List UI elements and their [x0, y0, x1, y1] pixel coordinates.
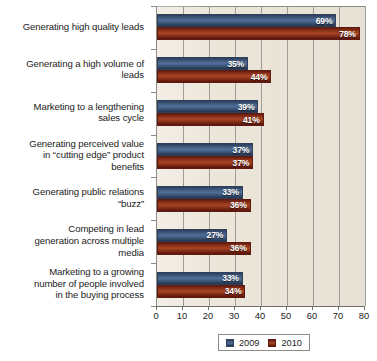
category-label-line: Generating perceived value	[0, 138, 144, 150]
category-label-column: Generating high quality leadsGenerating …	[0, 4, 148, 306]
bar-value-label: 37%	[233, 145, 250, 155]
bar-2009-4: 33%	[157, 186, 243, 199]
category-label-6: Marketing to a growingnumber of people i…	[0, 266, 144, 301]
category-label-line: Marketing to a lengthening	[0, 101, 144, 113]
bar-value-label: 27%	[207, 230, 224, 240]
category-label-5: Competing in leadgeneration across multi…	[0, 223, 144, 258]
category-label-line: Competing in lead	[0, 223, 144, 235]
bar-value-label: 37%	[233, 158, 250, 168]
category-axis-tick	[151, 263, 156, 264]
category-label-line: leads	[0, 69, 144, 81]
legend-label: 2009	[239, 338, 259, 348]
legend-swatch-2010	[268, 339, 276, 347]
bar-2010-5: 36%	[157, 242, 251, 255]
category-label-line: media	[0, 247, 144, 259]
bar-value-label: 69%	[316, 16, 333, 26]
bar-value-label: 35%	[227, 59, 244, 69]
x-axis-tick-label: 30	[222, 310, 246, 321]
bar-value-label: 33%	[222, 273, 239, 283]
category-label-line: Marketing to a growing	[0, 266, 144, 278]
category-label-line: benefits	[0, 161, 144, 173]
x-axis-tick-label: 20	[196, 310, 220, 321]
x-axis-tick-label: 0	[144, 310, 168, 321]
category-label-line: Generating a high volume of	[0, 58, 144, 70]
category-label-line: in “cutting edge” product	[0, 149, 144, 161]
bar-2009-0: 69%	[157, 14, 336, 27]
category-label-line: in the buying process	[0, 289, 144, 301]
category-label-2: Marketing to a lengtheningsales cycle	[0, 101, 144, 124]
bar-2010-3: 37%	[157, 156, 253, 169]
bar-value-label: 41%	[243, 115, 260, 125]
x-axis-tick-label: 40	[248, 310, 272, 321]
bar-2010-4: 36%	[157, 199, 251, 212]
x-axis-tick-label: 60	[300, 310, 324, 321]
gridline	[365, 6, 366, 306]
plot-area: 69%35%39%37%33%27%33%78%44%41%37%36%36%3…	[156, 6, 365, 306]
category-axis-tick	[151, 177, 156, 178]
category-label-line: generation across multiple	[0, 235, 144, 247]
category-axis-tick	[151, 306, 156, 307]
bar-2009-1: 35%	[157, 57, 248, 70]
bar-2010-0: 78%	[157, 27, 360, 40]
category-axis-tick	[151, 49, 156, 50]
bar-value-label: 44%	[251, 72, 268, 82]
category-label-line: number of people involved	[0, 278, 144, 290]
bar-2010-1: 44%	[157, 70, 271, 83]
category-axis-tick	[151, 92, 156, 93]
category-label-1: Generating a high volume ofleads	[0, 58, 144, 81]
bar-2010-2: 41%	[157, 113, 264, 126]
bar-2010-6: 34%	[157, 285, 245, 298]
category-axis-tick	[151, 220, 156, 221]
category-label-line: “buzz”	[0, 198, 144, 210]
bar-2009-5: 27%	[157, 229, 227, 242]
legend-item-2010[interactable]: 2010	[268, 338, 301, 348]
x-axis-tick-label: 80	[352, 310, 376, 321]
gridline	[261, 6, 262, 306]
x-axis-tick-label: 70	[326, 310, 350, 321]
bar-2009-3: 37%	[157, 143, 253, 156]
category-label-line: Generating high quality leads	[0, 21, 144, 33]
bar-value-label: 39%	[238, 102, 255, 112]
gridline	[313, 6, 314, 306]
category-axis-tick	[151, 135, 156, 136]
gridline	[339, 6, 340, 306]
bar-2009-6: 33%	[157, 272, 243, 285]
bar-chart: Generating high quality leadsGenerating …	[0, 0, 377, 361]
legend-item-2009[interactable]: 2009	[226, 338, 259, 348]
x-axis-tick-label: 10	[170, 310, 194, 321]
category-label-4: Generating public relations“buzz”	[0, 186, 144, 209]
bar-value-label: 34%	[225, 286, 242, 296]
category-label-line: sales cycle	[0, 112, 144, 124]
gridline	[287, 6, 288, 306]
legend-label: 2010	[281, 338, 301, 348]
x-axis-tick-label: 50	[274, 310, 298, 321]
bar-value-label: 33%	[222, 187, 239, 197]
category-axis-tick	[151, 6, 156, 7]
chart-legend: 20092010	[218, 334, 310, 351]
category-label-3: Generating perceived valuein “cutting ed…	[0, 138, 144, 173]
bar-value-label: 36%	[230, 200, 247, 210]
bar-value-label: 36%	[230, 243, 247, 253]
bar-value-label: 78%	[339, 29, 356, 39]
bar-2009-2: 39%	[157, 100, 258, 113]
legend-swatch-2009	[226, 339, 234, 347]
category-label-line: Generating public relations	[0, 186, 144, 198]
category-label-0: Generating high quality leads	[0, 21, 144, 33]
